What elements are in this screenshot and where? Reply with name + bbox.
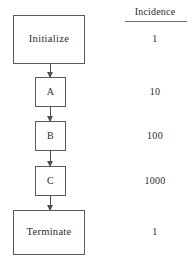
flow-node-label: A bbox=[47, 87, 55, 97]
incidence-value: 1 bbox=[118, 33, 192, 44]
incidence-value: 10 bbox=[118, 86, 192, 97]
incidence-column-header: Incidence bbox=[118, 6, 192, 17]
flow-node-initialize: Initialize bbox=[13, 15, 85, 64]
flowchart-figure: Initialize A B C Terminate Incidence 1 1… bbox=[0, 0, 194, 268]
flow-node-b: B bbox=[35, 121, 66, 151]
incidence-header-underline bbox=[125, 21, 187, 22]
flow-arrow-c-to-terminate bbox=[50, 196, 51, 210]
incidence-value: 1000 bbox=[118, 175, 192, 186]
flow-arrow-initialize-to-a bbox=[50, 64, 51, 77]
flow-arrow-b-to-c bbox=[50, 151, 51, 166]
flow-node-c: C bbox=[35, 166, 66, 196]
flow-node-a: A bbox=[35, 77, 66, 107]
flow-node-label: Initialize bbox=[29, 34, 69, 45]
incidence-value: 100 bbox=[118, 130, 192, 141]
flow-node-label: Terminate bbox=[26, 227, 71, 238]
flow-node-label: C bbox=[47, 176, 54, 186]
flow-node-label: B bbox=[47, 131, 54, 141]
flow-node-terminate: Terminate bbox=[13, 210, 85, 255]
flow-arrow-a-to-b bbox=[50, 107, 51, 121]
incidence-value: 1 bbox=[118, 226, 192, 237]
